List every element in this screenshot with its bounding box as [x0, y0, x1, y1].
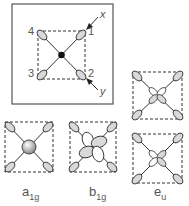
eu-orbital-2: [130, 131, 184, 185]
ligand-label-3: 3: [28, 67, 34, 79]
a1g-orbital: [3, 120, 54, 173]
eu-orbital-1: [130, 69, 184, 121]
x-axis-label: x: [100, 8, 106, 20]
ligand-label-4: 4: [28, 25, 34, 37]
label-eu: eu: [154, 184, 166, 202]
coordinate-frame: [12, 4, 113, 104]
ligand-label-1: 1: [88, 25, 94, 37]
y-axis-label: y: [100, 85, 106, 97]
metal-center: [58, 52, 65, 59]
label-a1g: a1g: [22, 184, 39, 202]
b1g-orbital: [67, 120, 118, 173]
ligand-label-2: 2: [88, 67, 94, 79]
label-b1g: b1g: [89, 184, 106, 202]
